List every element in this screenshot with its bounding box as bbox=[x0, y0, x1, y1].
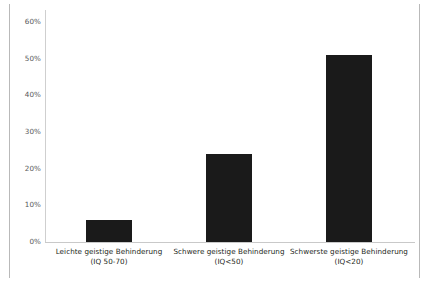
x-axis-category-1: Leichte geistige Behinderung(IQ 50-70) bbox=[49, 247, 169, 266]
y-axis-tick-60: 60% bbox=[10, 18, 41, 26]
category-label-main: Schwere geistige Behinderung bbox=[169, 247, 289, 257]
bar-chart: 60%50%40%30%20%10%0% Leichte geistige Be… bbox=[0, 0, 431, 282]
y-axis-line bbox=[45, 10, 46, 242]
bar-2 bbox=[206, 154, 252, 242]
y-axis-tick-0: 0% bbox=[10, 238, 41, 246]
y-axis-tick-20: 20% bbox=[10, 165, 41, 173]
y-axis-tick-40: 40% bbox=[10, 91, 41, 99]
y-axis-tick-30: 30% bbox=[10, 128, 41, 136]
chart-page: 60%50%40%30%20%10%0% Leichte geistige Be… bbox=[0, 0, 431, 282]
bar-3 bbox=[326, 55, 372, 242]
category-label-main: Leichte geistige Behinderung bbox=[49, 247, 169, 257]
category-label-main: Schwerste geistige Behinderung bbox=[289, 247, 409, 257]
category-label-sub: (IQ 50-70) bbox=[49, 257, 169, 267]
y-axis-tick-50: 50% bbox=[10, 55, 41, 63]
y-axis-tick-10: 10% bbox=[10, 201, 41, 209]
bar-1 bbox=[86, 220, 132, 242]
x-axis-category-3: Schwerste geistige Behinderung(IQ<20) bbox=[289, 247, 409, 266]
category-label-sub: (IQ<50) bbox=[169, 257, 289, 267]
x-axis-category-2: Schwere geistige Behinderung(IQ<50) bbox=[169, 247, 289, 266]
x-axis-line bbox=[45, 242, 415, 243]
category-label-sub: (IQ<20) bbox=[289, 257, 409, 267]
